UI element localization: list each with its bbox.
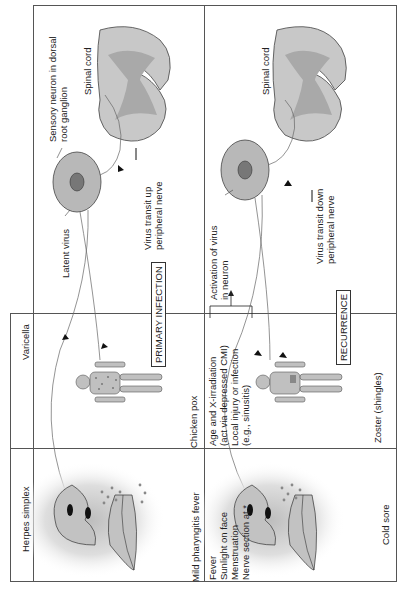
label-cold-sore: Cold sore bbox=[380, 504, 391, 545]
stage-recurrence: RECURRENCE bbox=[336, 290, 351, 365]
label-activation-of-virus: Activation of virus in neuron bbox=[208, 226, 230, 300]
row-label-varicella: Varicella bbox=[20, 324, 31, 360]
trigger-bracket bbox=[210, 306, 252, 318]
label-sensory-neuron: Sensory neuron in dorsal root ganglion bbox=[47, 36, 69, 142]
label-spinal-cord-recurrence: Spinal cord bbox=[260, 47, 271, 95]
label-virus-transit-up: Virus transit up peripheral nerve bbox=[142, 181, 164, 250]
varicella-triggers: Age and X-irradiation (act via depressed… bbox=[207, 345, 251, 446]
label-mild-pharyngitis: Mild pharyngitis fever bbox=[190, 492, 201, 582]
stage-primary-infection: PRIMARY INFECTION bbox=[151, 262, 166, 367]
label-virus-transit-down: Virus transit down peripheral nerve bbox=[314, 189, 336, 264]
spinal-cord-recurrence bbox=[273, 27, 346, 141]
herpes-triggers: Fever Sunlight on face Menstruation Nerv… bbox=[207, 505, 251, 580]
chickenpox-figure bbox=[76, 362, 162, 402]
sensory-neuron-recurrence bbox=[221, 140, 269, 200]
spinal-cord-primary bbox=[98, 27, 171, 141]
row-label-herpes-simplex: Herpes simplex bbox=[20, 487, 31, 552]
label-zoster: Zoster (shingles) bbox=[372, 372, 383, 443]
label-latent-virus: Latent virus bbox=[60, 229, 71, 278]
label-chicken-pox: Chicken pox bbox=[188, 396, 199, 448]
label-spinal-cord-primary: Spinal cord bbox=[82, 47, 93, 95]
zoster-figure bbox=[256, 362, 342, 402]
zoster-lesion bbox=[290, 375, 296, 383]
sensory-neuron-primary bbox=[53, 152, 101, 212]
